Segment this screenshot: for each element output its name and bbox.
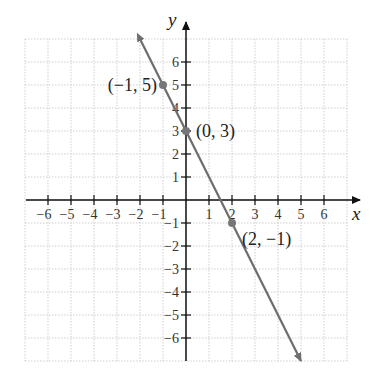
x-tick-label: 6 — [321, 207, 328, 222]
data-point — [228, 219, 236, 227]
x-axis-label: x — [351, 203, 361, 224]
y-tick-label: −4 — [164, 285, 179, 300]
x-tick-label: 4 — [275, 207, 282, 222]
point-label: (−1, 5) — [108, 75, 157, 96]
y-tick-label: −5 — [164, 308, 179, 323]
x-tick-label: −5 — [60, 207, 75, 222]
data-point — [159, 81, 167, 89]
data-point — [182, 127, 190, 135]
x-tick-label: 5 — [298, 207, 305, 222]
y-tick-label: 1 — [172, 170, 179, 185]
y-tick-label: −2 — [164, 239, 179, 254]
line-chart: −6−5−4−3−2−1123456−6−5−4−3−2−1123456xy(−… — [0, 0, 380, 384]
x-tick-label: 3 — [252, 207, 259, 222]
x-tick-label: 1 — [206, 207, 213, 222]
x-tick-label: −6 — [37, 207, 52, 222]
y-tick-label: −6 — [164, 331, 179, 346]
y-tick-label: 3 — [172, 124, 179, 139]
x-tick-label: −2 — [129, 207, 144, 222]
y-axis-label: y — [166, 9, 177, 30]
y-tick-label: −1 — [164, 216, 179, 231]
x-tick-label: −3 — [106, 207, 121, 222]
y-tick-label: −3 — [164, 262, 179, 277]
y-tick-label: 6 — [172, 55, 179, 70]
point-label: (2, −1) — [242, 229, 291, 250]
y-tick-label: 2 — [172, 147, 179, 162]
x-tick-label: −4 — [83, 207, 98, 222]
y-tick-label: 5 — [172, 78, 179, 93]
point-label: (0, 3) — [196, 121, 235, 142]
